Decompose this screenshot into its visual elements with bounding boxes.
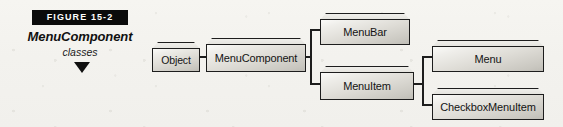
box-body: CheckboxMenuItem bbox=[432, 94, 544, 120]
class-label-checkboxmenuitem: CheckboxMenuItem bbox=[440, 102, 535, 113]
figure-caption-title: MenuComponent bbox=[0, 29, 160, 44]
box-body: MenuBar bbox=[320, 19, 410, 45]
class-label-menuitem: MenuItem bbox=[343, 81, 391, 92]
class-label-menubar: MenuBar bbox=[343, 27, 387, 38]
figure-number-bar: FIGURE 15-2 bbox=[32, 10, 128, 25]
class-label-menu: Menu bbox=[475, 54, 502, 65]
box-body: MenuItem bbox=[320, 72, 414, 100]
box-body: Object bbox=[152, 48, 200, 72]
figure-canvas: FIGURE 15-2 MenuComponent classes Object… bbox=[0, 0, 563, 127]
figure-caption-subtitle: classes bbox=[0, 46, 160, 58]
class-box-menuitem[interactable]: MenuItem bbox=[320, 66, 414, 100]
class-label-menucomponent: MenuComponent bbox=[215, 53, 297, 64]
class-box-menu[interactable]: Menu bbox=[432, 40, 544, 72]
class-box-menucomponent[interactable]: MenuComponent bbox=[206, 38, 306, 72]
edge-menuitem-split bbox=[422, 57, 424, 105]
class-box-object[interactable]: Object bbox=[152, 42, 200, 72]
class-box-menubar[interactable]: MenuBar bbox=[320, 13, 410, 45]
class-label-object: Object bbox=[161, 55, 190, 66]
figure-caption-block: FIGURE 15-2 MenuComponent classes bbox=[0, 0, 160, 84]
down-triangle-icon bbox=[74, 62, 90, 73]
class-box-checkboxmenuitem[interactable]: CheckboxMenuItem bbox=[432, 88, 544, 120]
edge-menucomponent-split bbox=[310, 30, 312, 84]
box-body: MenuComponent bbox=[206, 44, 306, 72]
box-body: Menu bbox=[432, 46, 544, 72]
